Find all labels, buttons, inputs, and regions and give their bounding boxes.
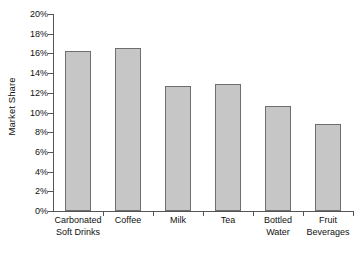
bar-chart: Market Share 20%18%16%14%12%10%8%6%4%2%0… [0,0,362,258]
x-axis-category-label: BottledWater [264,215,292,238]
y-axis-tick-label: 12% [2,88,48,98]
bar [315,124,341,211]
y-axis-tick-label: 8% [2,127,48,137]
y-axis-tick [48,93,53,94]
bar [115,48,141,211]
y-axis-tick-label: 20% [2,9,48,19]
y-axis-tick-label: 0% [2,206,48,216]
y-axis-tick-label: 2% [2,186,48,196]
y-axis-tick [48,191,53,192]
x-axis-labels: CarbonatedSoft DrinksCoffeeMilkTeaBottle… [53,215,353,257]
x-axis-category-label: Milk [170,215,186,227]
bar [165,86,191,211]
y-axis-tick-label: 14% [2,68,48,78]
x-axis-category-label: Coffee [115,215,141,227]
y-axis-tick-label: 10% [2,108,48,118]
y-axis-tick-label: 4% [2,167,48,177]
x-axis-category-label: Tea [221,215,236,227]
plot-area [53,14,353,212]
x-axis-category-label: FruitBeverages [306,215,349,238]
y-axis-tick [48,14,53,15]
y-axis-tick [48,113,53,114]
x-axis-category-label: CarbonatedSoft Drinks [54,215,101,238]
bar [215,84,241,211]
y-axis-tick [48,152,53,153]
y-axis-tick-label: 18% [2,29,48,39]
y-axis-tick [48,172,53,173]
y-axis-line [53,14,54,212]
y-axis-labels: 20%18%16%14%12%10%8%6%4%2%0% [0,14,48,212]
x-axis-tick [353,211,354,216]
bar [65,51,91,211]
y-axis-tick [48,73,53,74]
y-axis-tick [48,34,53,35]
y-axis-tick [48,53,53,54]
y-axis-tick [48,211,53,212]
y-axis-tick-label: 6% [2,147,48,157]
y-axis-tick [48,132,53,133]
y-axis-tick-label: 16% [2,48,48,58]
bar [265,106,291,211]
